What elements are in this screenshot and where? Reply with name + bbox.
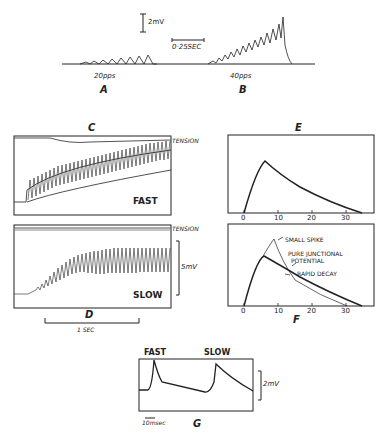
- g-scale-t: 10msec: [142, 419, 166, 426]
- tick-f-10: 10: [274, 307, 283, 315]
- scale-voltage: 2mV: [148, 18, 164, 26]
- tick-f-20: 20: [307, 307, 316, 315]
- label-a: A: [100, 84, 108, 95]
- slow-label: SLOW: [133, 290, 162, 300]
- tension-c: TENSION: [172, 137, 199, 144]
- scale-time: 0·25SEC: [172, 43, 201, 51]
- scale-5mv: 5mV: [181, 263, 197, 271]
- scale-1sec: 1 SEC: [77, 326, 95, 333]
- g-fast: FAST: [144, 348, 166, 357]
- label-d: D: [85, 309, 93, 320]
- fast-label: FAST: [133, 196, 158, 206]
- label-f: F: [293, 314, 300, 325]
- g-scale-v: 2mV: [263, 380, 279, 388]
- ann-pure: PURE JUNCTIONAL: [288, 250, 343, 257]
- figure: 2mV 0·25SEC 20pps 40pps A B C TENSION FA…: [0, 0, 392, 434]
- label-g: G: [193, 418, 201, 429]
- ann-small-spike: SMALL SPIKE: [285, 236, 324, 243]
- label-e: E: [295, 122, 302, 133]
- label-b: B: [239, 84, 247, 95]
- tick-e-0: 0: [241, 214, 245, 222]
- tick-e-10: 10: [274, 214, 283, 222]
- label-c: C: [88, 122, 95, 133]
- rate-b: 40pps: [230, 72, 251, 80]
- tick-e-30: 30: [341, 214, 350, 222]
- g-slow: SLOW: [204, 348, 230, 357]
- tension-d: TENSION: [172, 225, 199, 232]
- rate-a: 20pps: [94, 72, 115, 80]
- ann-potential: POTENTIAL: [291, 257, 324, 264]
- tick-f-0: 0: [241, 307, 245, 315]
- ann-rapid-decay: RAPID DECAY: [297, 270, 337, 277]
- tick-f-30: 30: [341, 307, 350, 315]
- tick-e-20: 20: [307, 214, 316, 222]
